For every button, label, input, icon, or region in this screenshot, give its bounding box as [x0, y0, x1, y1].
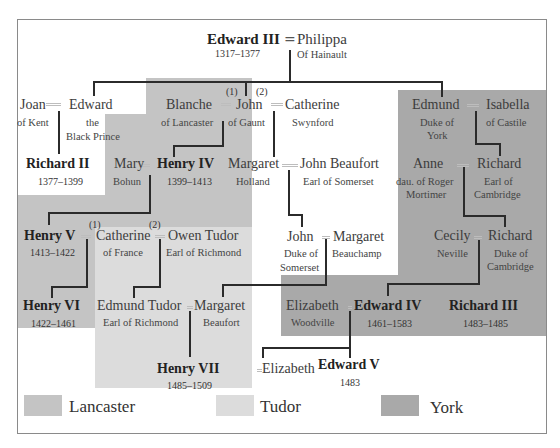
person-john-somerset-title-2: Somerset: [280, 263, 319, 274]
person-edward-v-dates: 1483: [340, 378, 360, 388]
person-edmund-tudor-title: Earl of Richmond: [103, 318, 178, 329]
person-john-somerset: John: [287, 230, 313, 244]
person-mary-bohun-title: Bohun: [113, 177, 141, 188]
connector-line: [288, 214, 302, 216]
person-joan: Joan: [20, 98, 46, 112]
legend-label-tudor: Tudor: [260, 397, 301, 417]
person-richard-duke-title-1: Duke of: [494, 249, 528, 260]
person-edmund-title-1: Duke of: [420, 118, 454, 129]
marriage-mark: [348, 306, 352, 309]
person-joan-title: of Kent: [17, 118, 49, 129]
marriage-mark: [322, 236, 330, 239]
person-anne-mortimer: Anne: [413, 157, 443, 171]
connector-line: [475, 111, 477, 145]
person-john-of-gaunt: John: [236, 98, 262, 112]
person-richard-iii: Richard III: [449, 299, 518, 313]
person-mary-bohun: Mary: [114, 157, 144, 171]
marriage-mark: [474, 236, 482, 239]
connector-line: [133, 286, 135, 298]
connector-line: [133, 286, 161, 288]
connector-line: [222, 284, 224, 297]
connector-line: [58, 111, 60, 154]
person-edward-bp-title-1: the: [86, 118, 99, 129]
person-henry-vii-dates: 1485–1509: [167, 381, 212, 391]
person-blanche: Blanche: [166, 98, 212, 112]
connector-line: [93, 81, 443, 83]
connector-line: [51, 286, 53, 298]
marriage-mark: [282, 164, 298, 167]
connector-line: [48, 212, 151, 214]
person-margaret-holland-title: Holland: [236, 177, 270, 188]
connector-line: [301, 214, 303, 227]
person-catherine-of-france-title: of France: [103, 248, 143, 259]
person-edward-black-prince: Edward: [69, 98, 113, 112]
person-edmund-york: Edmund: [412, 98, 459, 112]
person-richard-iii-dates: 1483–1485: [463, 319, 508, 329]
legend-swatch-york: [381, 395, 419, 416]
person-john-of-gaunt-title: of Gaunt: [228, 118, 265, 129]
marriage-mark: [221, 103, 231, 106]
person-edward-iii: Edward III: [207, 32, 280, 47]
connector-line: [48, 212, 50, 225]
connector-line: [478, 240, 480, 285]
marriage-order-2: (2): [149, 220, 161, 230]
connector-line: [222, 284, 327, 286]
person-margaret-beaufort-title: Beaufort: [203, 318, 240, 329]
person-cecily-neville: Cecily: [434, 229, 471, 243]
legend-label-york: York: [430, 398, 463, 418]
person-henry-v-dates: 1413–1422: [30, 248, 75, 258]
connector-line: [262, 347, 351, 349]
marriage-order-1: (1): [226, 87, 238, 97]
person-elizabeth-woodville: Elizabeth: [286, 299, 339, 313]
connector-line: [463, 167, 465, 217]
connector-line: [93, 81, 95, 96]
connector-line: [149, 175, 151, 214]
person-anne-title-2: Mortimer: [406, 190, 446, 201]
person-richard-duke-title-2: Cambridge: [487, 262, 534, 273]
person-richard-ii-dates: 1377–1399: [38, 177, 83, 187]
connector-line: [289, 50, 291, 82]
person-richard-cambridge: Richard: [477, 157, 521, 171]
person-henry-vi-dates: 1422–1461: [31, 319, 76, 329]
person-henry-iv: Henry IV: [157, 157, 214, 171]
person-owen-tudor-title: Earl of Richmond: [166, 248, 241, 259]
connector-line: [222, 121, 224, 147]
person-edward-iv: Edward IV: [354, 299, 421, 313]
marriage-equals: =: [284, 32, 296, 46]
marriage-mark: [457, 164, 469, 167]
person-john-somerset-title-1: Duke of: [284, 249, 318, 260]
person-edmund-title-2: York: [427, 131, 448, 142]
person-margaret-beauchamp-title: Beauchamp: [332, 249, 382, 260]
person-john-beaufort-title: Earl of Somerset: [303, 177, 374, 188]
connector-line: [86, 239, 88, 287]
person-owen-tudor: Owen Tudor: [168, 229, 238, 243]
connector-line: [273, 111, 275, 157]
connector-line: [245, 81, 247, 96]
lancaster-region: [18, 195, 252, 227]
connector-line: [262, 347, 264, 358]
person-john-beaufort: John Beaufort: [300, 157, 379, 171]
connector-line: [387, 283, 480, 285]
person-anne-title-1: dau. of Roger: [396, 177, 453, 188]
person-edward-iii-dates: 1317–1377: [215, 49, 260, 59]
connector-line: [504, 215, 506, 227]
person-edward-v: Edward V: [318, 358, 380, 372]
person-edward-bp-title-2: Black Prince: [66, 132, 120, 143]
legend-label-lancaster: Lancaster: [69, 397, 135, 417]
person-margaret-holland: Margaret: [228, 157, 279, 171]
person-elizabeth-woodville-title: Woodville: [291, 318, 334, 329]
person-catherine-of-france: Catherine: [96, 229, 150, 243]
person-isabella-title: of Castile: [486, 118, 527, 129]
marriage-mark: [46, 103, 61, 106]
person-edward-iv-dates: 1461–1583: [367, 319, 412, 329]
connector-line: [387, 283, 389, 296]
person-edmund-tudor: Edmund Tudor: [97, 299, 181, 313]
marriage-mark: [187, 306, 193, 309]
person-henry-vii: Henry VII: [157, 362, 219, 376]
person-philippa-title: Of Hainault: [297, 50, 347, 61]
connector-line: [499, 143, 501, 156]
person-blanche-title: of Lancaster: [161, 118, 213, 129]
connector-line: [463, 215, 506, 217]
marriage-order-2: (2): [256, 87, 268, 97]
connector-line: [173, 145, 224, 147]
